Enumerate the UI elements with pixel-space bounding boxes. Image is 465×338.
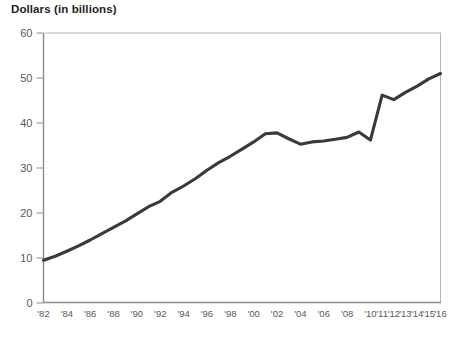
- x-tick-label: '00: [247, 308, 259, 319]
- y-tick-label: 0: [26, 297, 32, 309]
- x-tick-label: '04: [294, 308, 306, 319]
- y-tick-label: 40: [20, 117, 32, 129]
- y-tick-label: 20: [20, 207, 32, 219]
- x-tick-label: '94: [177, 308, 189, 319]
- x-axis-ticks: '82'84'86'88'90'92'94'96'98'00'02'04'06'…: [37, 308, 446, 319]
- x-tick-label: '90: [131, 308, 143, 319]
- x-tick-label: '82: [37, 308, 49, 319]
- x-tick-label: '92: [154, 308, 166, 319]
- y-tick-label: 50: [20, 72, 32, 84]
- y-tick-label: 60: [20, 27, 32, 39]
- axis-frame: [44, 33, 442, 303]
- y-tick-label: 30: [20, 162, 32, 174]
- x-tick-label: '84: [61, 308, 73, 319]
- line-chart: Dollars (in billions) 6050403020100 '82'…: [0, 0, 465, 338]
- x-tick-label: '14: [411, 308, 423, 319]
- x-tick-label: '86: [84, 308, 96, 319]
- data-series-line: [44, 74, 441, 261]
- x-tick-label: '10: [364, 308, 376, 319]
- x-tick-label: '98: [224, 308, 236, 319]
- x-tick-label: '15: [423, 308, 435, 319]
- x-tick-label: '08: [341, 308, 353, 319]
- x-tick-label: '16: [434, 308, 446, 319]
- x-tick-label: '96: [201, 308, 213, 319]
- y-axis-ticks: 6050403020100: [20, 27, 43, 309]
- x-tick-label: '88: [107, 308, 119, 319]
- x-tick-label: '02: [271, 308, 283, 319]
- chart-plot-area: 6050403020100 '82'84'86'88'90'92'94'96'9…: [0, 0, 465, 338]
- x-tick-label: '12: [388, 308, 400, 319]
- x-tick-label: '11: [376, 308, 388, 319]
- y-tick-label: 10: [20, 252, 32, 264]
- x-tick-label: '06: [318, 308, 330, 319]
- x-tick-label: '13: [399, 308, 411, 319]
